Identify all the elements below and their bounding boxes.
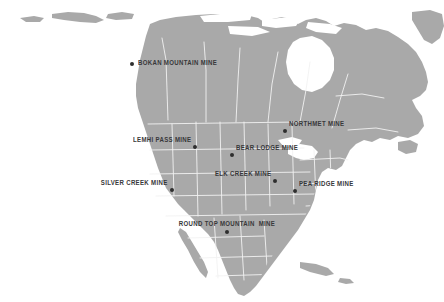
mine-label-pea-ridge: PEA RIDGE MINE [299,181,354,188]
mine-label-round-top-mountain: ROUND TOP MOUNTAIN MINE [179,221,275,228]
mine-label-northmet: NORTHMET MINE [289,121,344,128]
mine-label-bokan-mountain: BOKAN MOUNTAIN MINE [138,60,217,67]
mine-label-silver-creek: SILVER CREEK MINE [101,180,168,187]
mine-label-lemhi-pass: LEMHI PASS MINE [133,137,191,144]
map-container: BOKAN MOUNTAIN MINE NORTHMET MINE LEMHI … [0,0,444,302]
mine-marker-dot [293,189,297,193]
mine-marker-dot [230,153,234,157]
mine-marker-dot [273,179,277,183]
mine-marker-dot [283,129,287,133]
mine-marker-dot [130,62,134,66]
mine-marker-dot [225,230,229,234]
mine-label-elk-creek: ELK CREEK MINE [215,171,271,178]
mine-marker-dot [170,188,174,192]
mine-label-bear-lodge: BEAR LODGE MINE [236,145,298,152]
mine-markers-layer: BOKAN MOUNTAIN MINE NORTHMET MINE LEMHI … [0,0,444,302]
mine-marker-dot [193,145,197,149]
